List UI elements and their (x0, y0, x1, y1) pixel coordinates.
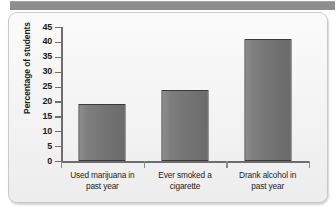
bar-slot (226, 27, 309, 161)
x-axis-category-label: Used marijuana inpast year (61, 170, 144, 191)
x-axis-category-label-line: past year (61, 181, 144, 192)
bar-chart: Percentage of students 05101520253035404… (9, 13, 328, 203)
category-separator (61, 161, 62, 168)
x-axis-category-label-line: past year (226, 181, 309, 192)
y-axis-tick-label: 0 (47, 156, 52, 166)
bar[interactable] (161, 90, 208, 161)
y-axis-tick-label: 15 (43, 111, 52, 121)
x-axis-category-label-line: Ever smoked a (144, 170, 227, 181)
y-axis-tick-label: 45 (43, 22, 52, 32)
screenshot-root: Percentage of students 05101520253035404… (0, 0, 336, 209)
x-axis-line (61, 161, 309, 163)
y-axis-tick-label: 5 (47, 141, 52, 151)
y-axis-tick-label: 40 (43, 36, 52, 46)
x-axis-category-label-line: Drank alcohol in (226, 170, 309, 181)
y-axis-tick-label: 25 (43, 81, 52, 91)
bars-container (61, 27, 309, 161)
x-axis-category-label-line: Used marijuana in (61, 170, 144, 181)
x-axis-category-label-line: cigarette (144, 181, 227, 192)
category-separator (309, 161, 310, 168)
chart-panel: Percentage of students 05101520253035404… (8, 12, 328, 203)
y-axis-tick-label: 30 (43, 66, 52, 76)
bar-slot (144, 27, 227, 161)
y-axis-title: Percentage of students (22, 12, 32, 133)
y-axis-tick-label: 35 (43, 51, 52, 61)
y-axis-tick-label: 10 (43, 126, 52, 136)
bar-slot (61, 27, 144, 161)
category-separator (226, 161, 227, 168)
bar[interactable] (244, 39, 291, 161)
x-axis-category-label: Drank alcohol inpast year (226, 170, 309, 191)
category-separator (144, 161, 145, 168)
bar[interactable] (79, 104, 126, 161)
y-axis-tick-label: 20 (43, 96, 52, 106)
x-axis-category-label: Ever smoked acigarette (144, 170, 227, 191)
